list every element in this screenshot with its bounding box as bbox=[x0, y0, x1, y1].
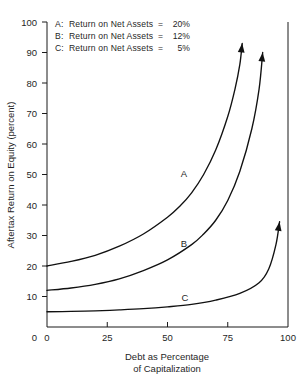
legend-eq-b: = bbox=[158, 31, 163, 41]
x-axis-title-line1: Debt as Percentage bbox=[125, 351, 209, 362]
y-axis-title: Aftertax Return on Equity (percent) bbox=[5, 102, 16, 249]
legend-key-c: C: bbox=[55, 43, 64, 53]
plot-frame bbox=[47, 22, 288, 327]
legend-eq-c: = bbox=[158, 43, 163, 53]
x-axis-title-line2: of Capitalization bbox=[133, 363, 201, 374]
y-tick-label-90: 90 bbox=[26, 47, 37, 58]
legend-desc-a: Return on Net Assets bbox=[69, 19, 153, 29]
x-tick-label-75: 75 bbox=[222, 332, 233, 343]
legend-value-a: 20% bbox=[173, 19, 191, 29]
y-tick-label-80: 80 bbox=[26, 78, 37, 89]
y-tick-label-60: 60 bbox=[26, 139, 37, 150]
curve-label-b: B bbox=[181, 238, 187, 249]
chart-container: 100 90 80 70 60 50 40 30 20 10 0 0 25 50… bbox=[0, 0, 303, 379]
legend-value-b: 12% bbox=[173, 31, 191, 41]
y-tick-label-50: 50 bbox=[26, 169, 37, 180]
legend-value-c: 5% bbox=[178, 43, 191, 53]
curve-label-a: A bbox=[181, 168, 188, 179]
return-on-equity-line-chart: 100 90 80 70 60 50 40 30 20 10 0 0 25 50… bbox=[0, 0, 303, 379]
curve-a-arrow-icon bbox=[238, 43, 245, 52]
y-tick-label-40: 40 bbox=[26, 200, 37, 211]
x-tick-label-25: 25 bbox=[102, 332, 113, 343]
curve-c bbox=[47, 222, 280, 312]
legend-eq-a: = bbox=[158, 19, 163, 29]
curve-a bbox=[47, 43, 242, 266]
curve-b bbox=[47, 53, 263, 291]
y-tick-label-70: 70 bbox=[26, 108, 37, 119]
curve-b-arrow-icon bbox=[258, 53, 265, 62]
y-tick-label-0: 0 bbox=[32, 332, 37, 343]
curve-label-c: C bbox=[182, 292, 189, 303]
legend-key-b: B: bbox=[55, 31, 63, 41]
y-tick-label-100: 100 bbox=[21, 17, 37, 28]
y-axis-ticks bbox=[42, 22, 47, 297]
x-tick-label-100: 100 bbox=[280, 332, 296, 343]
data-curves bbox=[47, 43, 282, 311]
y-tick-label-10: 10 bbox=[26, 291, 37, 302]
legend-key-a: A: bbox=[55, 19, 63, 29]
legend: A: Return on Net Assets = 20% B: Return … bbox=[55, 19, 190, 53]
y-tick-label-30: 30 bbox=[26, 230, 37, 241]
x-tick-label-50: 50 bbox=[162, 332, 173, 343]
y-tick-label-20: 20 bbox=[26, 261, 37, 272]
legend-desc-c: Return on Net Assets bbox=[69, 43, 153, 53]
x-axis-ticks bbox=[107, 322, 228, 327]
curve-c-arrow-icon bbox=[275, 222, 282, 231]
legend-desc-b: Return on Net Assets bbox=[69, 31, 153, 41]
x-tick-label-0: 0 bbox=[44, 332, 49, 343]
